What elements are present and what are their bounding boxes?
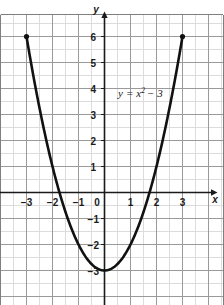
x-tick-label: 2 — [154, 197, 160, 208]
endpoint-dot-left — [24, 34, 29, 39]
equation-exponent: 2 — [141, 86, 145, 95]
y-tick-label: 5 — [90, 58, 96, 69]
y-tick-label: 6 — [90, 32, 96, 43]
equation-rest: − 3 — [147, 87, 163, 99]
y-tick-label: 4 — [90, 84, 96, 95]
plot-background — [0, 0, 224, 305]
x-tick-label: 1 — [128, 197, 134, 208]
graph-figure: (2) — [0, 0, 224, 305]
equation-lhs: y — [117, 87, 123, 99]
equation-equals: = — [126, 87, 133, 99]
x-tick-label: 3 — [180, 197, 186, 208]
x-tick-label: −1 — [73, 197, 85, 208]
x-tick-label: −2 — [47, 197, 59, 208]
y-tick-label: −2 — [88, 240, 100, 251]
x-tick-label: −3 — [21, 197, 33, 208]
endpoint-dot-right — [180, 34, 185, 39]
y-tick-label: 3 — [90, 110, 96, 121]
x-axis-label: x — [211, 194, 218, 205]
x-tick-label-origin: 0 — [94, 197, 100, 208]
y-tick-label: 2 — [90, 136, 96, 147]
y-tick-label: −1 — [88, 214, 100, 225]
y-tick-label: 1 — [90, 162, 96, 173]
y-axis-label: y — [92, 4, 99, 15]
coordinate-plane: −3 −2 −1 0 1 2 3 6 5 4 3 2 1 −1 −2 −3 x … — [0, 0, 224, 305]
